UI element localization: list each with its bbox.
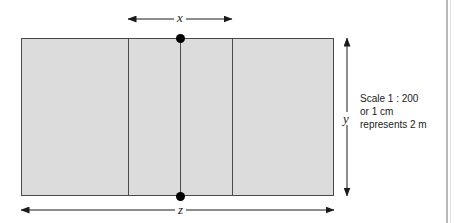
node-dot-top — [176, 34, 185, 43]
scale-note: Scale 1 : 200 or 1 cm represents 2 m — [360, 92, 427, 131]
scale-note-line-1: Scale 1 : 200 — [360, 92, 427, 105]
dimension-label-z: z — [175, 203, 186, 216]
dimension-label-x: x — [174, 11, 186, 24]
scale-note-line-2: or 1 cm — [360, 105, 427, 118]
scale-note-line-3: represents 2 m — [360, 118, 427, 131]
figure-root: x y z Scale 1 : 200 or 1 cm represents 2… — [0, 0, 456, 223]
node-dot-bottom — [176, 192, 185, 201]
dimension-label-y: y — [340, 112, 352, 125]
